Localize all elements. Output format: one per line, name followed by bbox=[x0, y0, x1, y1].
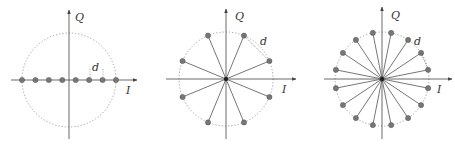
constellation-point bbox=[87, 77, 92, 82]
panel-8psk: d Q I bbox=[166, 9, 296, 139]
q-axis-label: Q bbox=[391, 9, 400, 22]
constellation-point bbox=[333, 86, 338, 91]
constellation-point bbox=[425, 86, 430, 91]
i-axis-label: I bbox=[125, 84, 131, 97]
constellation-point bbox=[389, 122, 394, 127]
q-axis-label: Q bbox=[75, 11, 84, 24]
constellation-point bbox=[418, 103, 423, 108]
constellation-point bbox=[19, 77, 24, 82]
constellation-point bbox=[241, 120, 246, 125]
constellation-point bbox=[353, 115, 358, 120]
constellation-point bbox=[370, 30, 375, 35]
constellation-point bbox=[73, 77, 78, 82]
constellation-point bbox=[180, 94, 185, 99]
constellation-point bbox=[180, 58, 185, 63]
origin-point bbox=[224, 77, 228, 81]
distance-label: d bbox=[414, 35, 421, 48]
i-axis-label: I bbox=[281, 83, 287, 96]
constellation-point bbox=[205, 33, 210, 38]
constellation-point bbox=[113, 77, 118, 82]
panel-pam: d Q I bbox=[11, 10, 137, 139]
constellation-point bbox=[205, 120, 210, 125]
constellation-point bbox=[406, 37, 411, 42]
constellation-point bbox=[267, 94, 272, 99]
constellation-point bbox=[340, 103, 345, 108]
constellation-point bbox=[333, 67, 338, 72]
origin-point bbox=[380, 77, 384, 81]
constellation-point bbox=[353, 37, 358, 42]
constellation-point bbox=[46, 77, 51, 82]
distance-label: d bbox=[260, 35, 267, 48]
constellation-point bbox=[60, 77, 65, 82]
distance-marker bbox=[421, 53, 428, 70]
constellation-point bbox=[33, 77, 38, 82]
constellation-point bbox=[340, 50, 345, 55]
i-axis-label: I bbox=[436, 83, 442, 96]
distance-label: d bbox=[92, 61, 99, 74]
constellation-diagram: d Q I d Q I d Q I bbox=[0, 0, 455, 145]
constellation-point bbox=[389, 30, 394, 35]
constellation-point bbox=[370, 122, 375, 127]
q-axis-label: Q bbox=[235, 10, 244, 23]
panel-16psk: d Q I bbox=[324, 7, 452, 139]
constellation-point bbox=[406, 115, 411, 120]
constellation-point bbox=[100, 77, 105, 82]
